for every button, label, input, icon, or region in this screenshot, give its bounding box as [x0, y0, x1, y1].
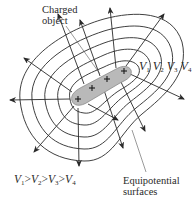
- equipotential-diagram: [0, 0, 192, 200]
- field-line-down: [78, 108, 79, 166]
- equipotential-leader: [132, 130, 146, 172]
- field-line-left: [10, 99, 70, 100]
- equipotential-label: Equipotential surfaces: [123, 175, 180, 197]
- field-line-up-2: [80, 20, 100, 76]
- potential-labels: V1 V2 V3 V4: [139, 61, 191, 76]
- potential-inequality: V1>V2>V3>V4: [14, 174, 76, 189]
- field-line-down-left: [34, 106, 74, 152]
- charged-object-label: Charged object: [42, 4, 77, 26]
